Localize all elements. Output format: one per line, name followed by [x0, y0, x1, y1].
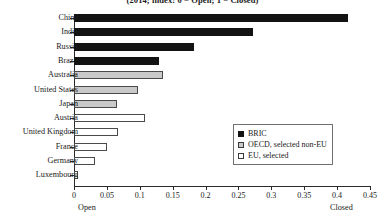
- legend-swatch-icon: [238, 142, 244, 148]
- category-label: China: [58, 13, 78, 23]
- category-label: Australia: [48, 70, 78, 80]
- category-label: Luxembourg: [36, 170, 78, 180]
- legend-label: EU, selected: [248, 150, 288, 161]
- bar-chart: (2014; index: 0 = Open; 1 = Closed) 00.0…: [0, 0, 385, 216]
- x-tick-mark: [304, 186, 305, 190]
- bar: [74, 28, 253, 36]
- bar: [74, 14, 348, 22]
- bar: [74, 43, 194, 51]
- x-axis-line: [74, 186, 370, 187]
- bar: [74, 57, 159, 65]
- category-label: Brazil: [58, 56, 78, 66]
- legend-swatch-icon: [238, 131, 244, 137]
- x-tick-mark: [238, 186, 239, 190]
- x-tick-mark: [74, 186, 75, 190]
- legend-label: OECD, selected non-EU: [248, 139, 327, 150]
- bar: [74, 86, 138, 94]
- bar: [74, 100, 117, 108]
- category-label: United Kingdom: [23, 127, 78, 137]
- bar: [74, 71, 163, 79]
- legend-swatch-icon: [238, 153, 244, 159]
- bar: [74, 128, 118, 136]
- axis-endpoint-open: Open: [78, 203, 96, 212]
- category-label: Russia: [56, 42, 78, 52]
- x-tick-mark: [140, 186, 141, 190]
- legend-item: EU, selected: [238, 150, 327, 161]
- x-tick-label: 0.45: [350, 191, 385, 200]
- legend-item: BRIC: [238, 128, 327, 139]
- category-label: Austria: [54, 113, 78, 123]
- legend-label: BRIC: [248, 128, 267, 139]
- legend-item: OECD, selected non-EU: [238, 139, 327, 150]
- category-label: United States: [34, 85, 78, 95]
- bar: [74, 114, 145, 122]
- category-label: India: [61, 27, 78, 37]
- x-tick-mark: [271, 186, 272, 190]
- x-tick-mark: [107, 186, 108, 190]
- bar: [74, 143, 107, 151]
- x-tick-mark: [173, 186, 174, 190]
- chart-title: (2014; index: 0 = Open; 1 = Closed): [0, 0, 385, 5]
- category-label: Japan: [59, 99, 78, 109]
- x-tick-mark: [337, 186, 338, 190]
- category-label: Germany: [48, 156, 78, 166]
- x-tick-mark: [370, 186, 371, 190]
- category-label: France: [56, 142, 78, 152]
- axis-endpoint-closed: Closed: [330, 203, 353, 212]
- x-tick-mark: [206, 186, 207, 190]
- chart-legend: BRICOECD, selected non-EUEU, selected: [233, 124, 333, 165]
